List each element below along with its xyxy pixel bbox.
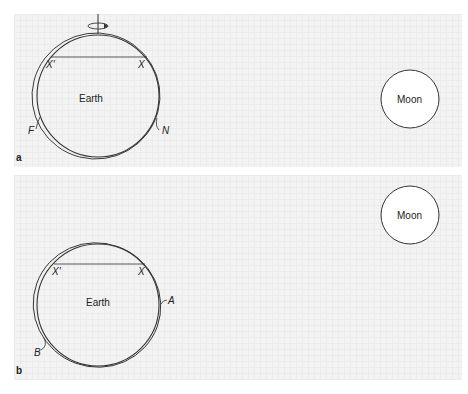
panel-letter-a: a [16, 152, 22, 163]
tidal-bulge-diagram: X' X Earth F N a Moon X' X Earth A B b M… [0, 0, 468, 394]
label-x-prime: X' [45, 59, 56, 70]
label-far-bulge: F [28, 125, 35, 136]
label-near-bulge: N [162, 125, 170, 136]
moon-label: Moon [397, 94, 422, 105]
label-x: X [137, 59, 145, 70]
earth-label: Earth [86, 297, 110, 308]
label-bulge-a: A [167, 295, 175, 306]
moon-label: Moon [397, 210, 422, 221]
panel-b: X' X Earth A B b Moon [16, 186, 439, 385]
label-x-prime: X' [51, 266, 62, 277]
panel-letter-b: b [16, 365, 22, 376]
earth-label: Earth [79, 93, 103, 104]
label-bulge-b: B [34, 347, 41, 358]
rotation-axis-icon [88, 14, 108, 34]
panel-a: X' X Earth F N a Moon [16, 14, 439, 167]
label-x: X [137, 266, 145, 277]
